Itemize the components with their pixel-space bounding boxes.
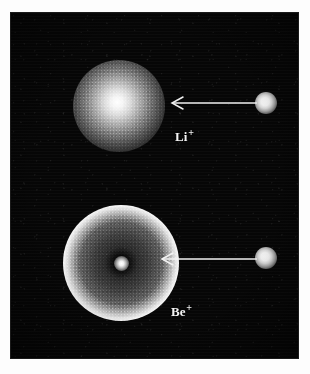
beryllium-shell-grain: [63, 205, 179, 321]
label-lithium-species: Li: [175, 129, 188, 144]
speckle-noise-texture: [11, 13, 298, 358]
beryllium-ion-shell: [63, 205, 179, 321]
label-beryllium-species: Be: [171, 304, 186, 319]
label-lithium-ion: Li+: [175, 128, 194, 143]
label-beryllium-ion: Be+: [171, 303, 192, 318]
label-beryllium-charge: +: [186, 302, 192, 313]
panel-vignette: [11, 13, 298, 358]
lithium-cloud-grain: [73, 60, 165, 152]
beryllium-central-ion: [114, 256, 129, 271]
beryllium-reference-spot: [255, 247, 277, 269]
label-lithium-charge: +: [188, 127, 194, 138]
scanline-noise-texture: [11, 13, 298, 358]
fluorescence-image-panel: Li+ Be+: [11, 13, 298, 358]
figure-root: Li+ Be+: [0, 0, 310, 374]
lithium-ion-cloud: [73, 60, 165, 152]
arrow-to-lithium-cloud: [169, 95, 257, 111]
arrow-to-beryllium-core: [159, 251, 257, 267]
lithium-reference-spot: [255, 92, 277, 114]
